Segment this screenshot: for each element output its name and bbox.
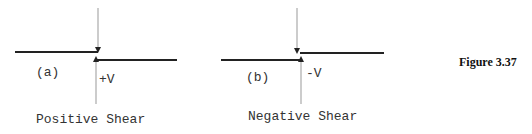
shear-diagram-figure: (a) +V Positive Shear (b) -V Negative Sh… xyxy=(0,0,532,134)
diagram-a-force-label: +V xyxy=(99,72,115,87)
diagram-b-label: (b) xyxy=(246,70,269,85)
diagram-b-caption: Negative Shear xyxy=(248,109,357,124)
down-arrow-icon xyxy=(294,48,300,54)
diagram-b-force-label: -V xyxy=(306,66,322,81)
negative-shear-diagram xyxy=(221,8,384,104)
figure-label: Figure 3.37 xyxy=(459,55,517,70)
diagram-a-caption: Positive Shear xyxy=(36,112,145,127)
diagram-a-label: (a) xyxy=(36,65,59,80)
positive-shear-diagram xyxy=(15,8,177,104)
